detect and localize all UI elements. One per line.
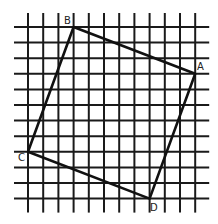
vertex-label-c: C <box>18 152 25 163</box>
vertex-label-a: A <box>197 61 204 72</box>
square-abdc <box>28 27 195 199</box>
vertex-label-b: B <box>64 15 71 26</box>
diagram-canvas: A B C D <box>0 0 218 224</box>
grid-figure: A B C D <box>0 0 218 224</box>
vertex-label-d: D <box>150 202 158 213</box>
